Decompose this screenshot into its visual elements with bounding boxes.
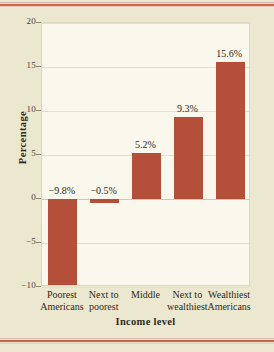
bar — [216, 62, 245, 199]
bar — [132, 153, 161, 199]
x-axis-tick-label: WealthiestAmericans — [204, 289, 254, 312]
top-rule-pale — [0, 6, 274, 7]
top-rule-light — [0, 2, 274, 3]
bar — [90, 199, 119, 203]
bar-value-label: 5.2% — [116, 139, 176, 150]
y-axis-tick-label: 20 — [6, 16, 36, 26]
bar — [174, 117, 203, 199]
figure-root: Percentage 20151050−5−10 −9.8%−0.5%5.2%9… — [0, 0, 274, 352]
y-axis-tick-label: 15 — [6, 60, 36, 70]
bottom-rule-accent — [0, 340, 274, 342]
plot-area — [41, 22, 250, 286]
bar-value-label: 9.3% — [157, 103, 217, 114]
bottom-rule-pale — [0, 343, 274, 344]
x-axis-tick-label-line: Americans — [204, 301, 254, 313]
y-axis-tick-label: −5 — [6, 236, 36, 246]
x-axis-title: Income level — [41, 316, 250, 327]
gridline — [42, 287, 249, 288]
bar-value-label: 15.6% — [199, 48, 259, 59]
bottom-rule-light — [0, 338, 274, 339]
gridline — [42, 23, 249, 24]
bar-value-label: −0.5% — [74, 185, 134, 196]
bar — [48, 199, 77, 285]
x-axis-tick-label-line: Wealthiest — [204, 289, 254, 301]
y-axis-tick-label: 5 — [6, 148, 36, 158]
x-axis-tick-label-line: poorest — [79, 301, 129, 313]
y-axis-tick-label: 10 — [6, 104, 36, 114]
y-axis-tick-label: −10 — [6, 280, 36, 290]
y-axis-tick-mark — [36, 286, 41, 287]
